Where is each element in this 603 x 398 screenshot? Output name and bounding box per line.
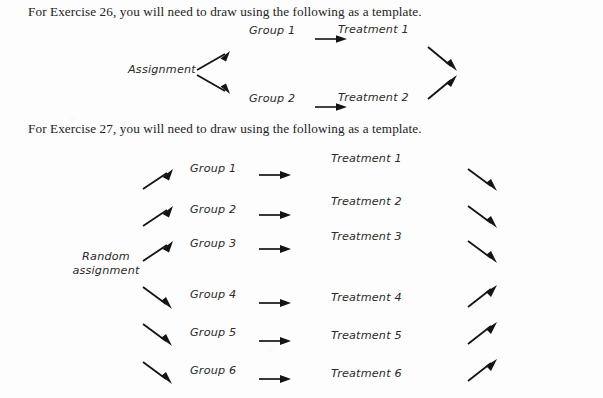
ex27-in-arrow-up-right-icon-1: [142, 168, 174, 190]
ex27-random-assignment-label: Random assignment: [70, 250, 142, 279]
ex27-in-arrow-up-right-icon-3: [142, 240, 174, 262]
ex27-treatment-label-2: Treatment 2: [331, 195, 402, 208]
ex27-in-arrow-down-right-icon-6: [142, 361, 174, 385]
ex27-in-arrow-up-right-icon-2: [142, 205, 174, 227]
ex26-assignment-label: Assignment: [128, 63, 196, 76]
ex27-out-arrow-up-right-icon-6: [467, 358, 499, 382]
ex26-converge-arrow-up-right-icon: [427, 74, 459, 100]
ex27-arrow-right-icon-1: [258, 169, 292, 181]
ex27-out-arrow-down-right-icon-1: [467, 168, 499, 192]
ex27-treatment-label-3: Treatment 3: [331, 230, 402, 243]
ex26-group-label-2: Group 2: [249, 92, 295, 105]
ex26-group-label-1: Group 1: [249, 24, 295, 37]
ex27-out-arrow-down-right-icon-2: [467, 205, 499, 229]
ex27-arrow-right-icon-2: [258, 209, 292, 221]
ex27-treatment-label-5: Treatment 5: [331, 329, 402, 342]
ex27-treatment-label-6: Treatment 6: [331, 367, 402, 380]
ex27-random-assignment-line2: assignment: [70, 264, 142, 278]
ex27-treatment-label-4: Treatment 4: [331, 291, 402, 304]
ex26-treatment-label-1: Treatment 1: [338, 23, 409, 36]
ex27-out-arrow-up-right-icon-4: [467, 284, 499, 308]
ex27-treatment-label-1: Treatment 1: [331, 152, 402, 165]
ex26-arrow-up-right-icon: [196, 49, 232, 71]
ex27-random-assignment-line1: Random: [70, 250, 142, 264]
ex27-out-arrow-down-right-icon-3: [467, 240, 499, 264]
ex27-arrow-right-icon-5: [258, 335, 292, 347]
ex27-out-arrow-up-right-icon-5: [467, 321, 499, 345]
ex27-in-arrow-down-right-icon-4: [142, 286, 174, 310]
scanned-worksheet-page: For Exercise 26, you will need to draw u…: [0, 0, 603, 398]
ex26-converge-arrow-down-right-icon: [427, 46, 459, 72]
ex27-group-label-5: Group 5: [190, 326, 236, 339]
ex27-group-label-2: Group 2: [190, 203, 236, 216]
ex27-group-label-1: Group 1: [190, 162, 236, 175]
ex27-group-label-3: Group 3: [190, 237, 236, 250]
ex27-arrow-right-icon-4: [258, 297, 292, 309]
ex26-treatment-label-2: Treatment 2: [338, 91, 409, 104]
ex27-arrow-right-icon-6: [258, 373, 292, 385]
exercise-27-instruction: For Exercise 27, you will need to draw u…: [28, 121, 422, 137]
exercise-26-instruction: For Exercise 26, you will need to draw u…: [28, 4, 422, 20]
scan-texture-overlay: [0, 0, 603, 398]
ex27-arrow-right-icon-3: [258, 243, 292, 255]
ex27-in-arrow-down-right-icon-5: [142, 323, 174, 347]
ex27-group-label-6: Group 6: [190, 364, 236, 377]
ex26-arrow-down-right-icon: [196, 74, 232, 96]
ex27-group-label-4: Group 4: [190, 288, 236, 301]
